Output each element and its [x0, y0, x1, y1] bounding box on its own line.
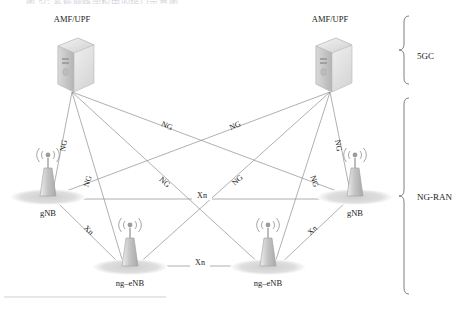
curly-brace-icon — [399, 16, 409, 84]
node-amf-upf-right[interactable]: AMF/UPF — [312, 14, 352, 92]
node-gnb-right[interactable]: gNB — [317, 148, 393, 218]
server-icon — [58, 38, 94, 92]
edge-ng-amfright-gnbleft — [53, 92, 330, 196]
edge-ng-amfleft-gnbright — [72, 92, 350, 196]
edge-label-xn: Xn — [195, 258, 205, 267]
edge-layer — [52, 92, 351, 266]
edge-label-ng: NG — [228, 119, 242, 132]
edge-label-xn: Xn — [197, 191, 207, 200]
edge-label-xn: Xn — [82, 224, 95, 237]
node-ng-enb-left[interactable]: ng–eNB — [92, 218, 168, 288]
group-braces: 5GC NG-RAN — [399, 16, 452, 294]
edge-ng-amfright-ngenbright — [274, 92, 330, 266]
ng-enb-left-label: ng–eNB — [116, 278, 145, 288]
edge-label-ng: NG — [82, 174, 94, 188]
node-ng-enb-right[interactable]: ng–eNB — [230, 218, 306, 288]
edge-label-ng: NG — [58, 139, 69, 152]
gnb-right-label: gNB — [347, 208, 363, 218]
network-architecture-diagram: AMF/UPF AMF/UPF — [0, 0, 465, 310]
group-label-5gc: 5GC — [417, 51, 434, 61]
ng-enb-right-label: ng–eNB — [254, 278, 283, 288]
antenna-tower-icon — [347, 158, 363, 196]
edge-label-ng: NG — [157, 175, 172, 190]
figure-canvas: 图 5G 系统网络架构中的接口示意图 — [0, 0, 465, 310]
edge-label-ng: NG — [160, 119, 174, 132]
edge-label-xn: Xn — [306, 224, 319, 237]
antenna-tower-icon — [260, 228, 276, 266]
node-amf-upf-left[interactable]: AMF/UPF — [54, 14, 94, 92]
gnb-left-label: gNB — [40, 208, 56, 218]
edge-label-ng: NG — [308, 174, 320, 188]
amf-upf-left-label: AMF/UPF — [54, 14, 91, 24]
amf-upf-right-label: AMF/UPF — [312, 14, 349, 24]
group-label-ng-ran: NG-RAN — [417, 192, 452, 202]
node-gnb-left[interactable]: gNB — [10, 148, 86, 218]
edge-label-ng: NG — [333, 139, 344, 152]
server-icon — [316, 38, 352, 92]
edge-label-ng: NG — [230, 173, 245, 188]
antenna-tower-icon — [122, 228, 138, 266]
curly-brace-icon — [399, 98, 409, 294]
antenna-tower-icon — [40, 158, 56, 196]
